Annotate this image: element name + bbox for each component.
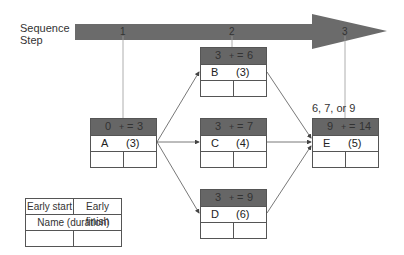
equals: = (237, 49, 243, 61)
node-b: 3+=6 B(3) (200, 47, 267, 97)
node-duration: (3) (126, 137, 139, 149)
legend-name-duration: Name (duration) (26, 215, 121, 230)
node-duration: (4) (236, 137, 249, 149)
equals: = (127, 120, 133, 132)
annotation-label: 6, 7, or 9 (312, 102, 355, 114)
step-3: 3 (342, 26, 348, 37)
early-finish: 3 (137, 120, 143, 132)
node-name: E (323, 137, 330, 149)
node-duration: (6) (236, 208, 249, 220)
node-a: 0+=3 A(3) (90, 118, 157, 168)
plus: + (229, 51, 234, 61)
plus: + (119, 122, 124, 132)
step-2: 2 (229, 26, 235, 37)
edge-b-e (267, 72, 311, 138)
legend-early-finish: Early finish (74, 199, 121, 214)
plus: + (229, 193, 234, 203)
node-e: 9+=14 E(5) (312, 118, 379, 168)
node-name: B (211, 66, 218, 78)
plus: + (229, 122, 234, 132)
node-name: C (211, 137, 219, 149)
legend: Early startEarly finish Name (duration) (25, 198, 122, 247)
plus: + (341, 122, 346, 132)
equals: = (237, 191, 243, 203)
early-finish: 14 (359, 120, 371, 132)
node-c: 3+=7 C(4) (200, 118, 267, 168)
node-name: A (101, 137, 108, 149)
early-start: 9 (327, 120, 333, 132)
label-line-1: Sequence (20, 22, 70, 34)
early-start: 3 (215, 49, 221, 61)
early-start: 0 (105, 120, 111, 132)
node-d: 3+=9 D(6) (200, 189, 267, 239)
equals: = (237, 120, 243, 132)
node-header: 0+=3 (91, 119, 156, 136)
equals: = (349, 120, 355, 132)
early-finish: 6 (247, 49, 253, 61)
edge-a-d (157, 142, 199, 213)
sequence-step-label: Sequence Step (20, 22, 70, 46)
legend-early-start: Early start (26, 199, 74, 214)
step-1: 1 (120, 26, 126, 37)
edge-a-b (157, 72, 199, 142)
early-finish: 9 (247, 191, 253, 203)
node-duration: (3) (236, 66, 249, 78)
early-finish: 7 (247, 120, 253, 132)
node-duration: (5) (348, 137, 361, 149)
early-start: 3 (215, 191, 221, 203)
label-line-2: Step (20, 34, 70, 46)
early-start: 3 (215, 120, 221, 132)
node-name: D (211, 208, 219, 220)
edge-d-e (267, 146, 311, 213)
